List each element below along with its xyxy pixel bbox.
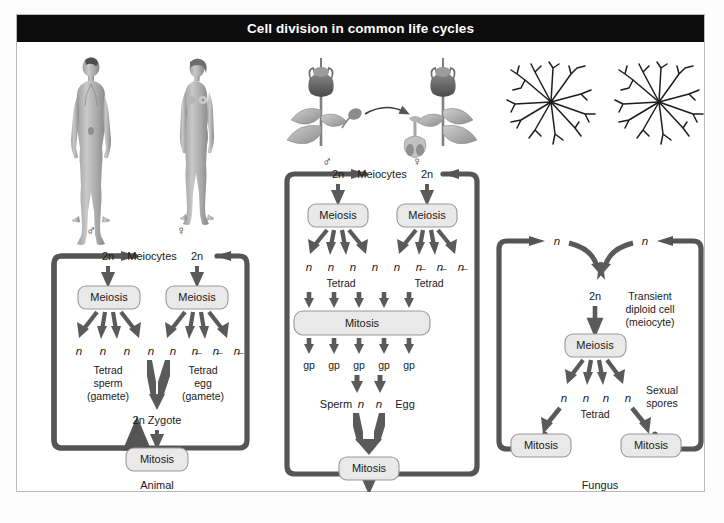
plant-mitosis-label: Mitosis xyxy=(352,462,387,474)
mycelium-network-right-icon xyxy=(615,62,703,144)
animal-loop-right-arrowhead xyxy=(215,251,231,261)
animal-meiocytes-label: Meiocytes xyxy=(127,250,177,262)
fungus-meiosis-box[interactable]: Meiosis xyxy=(565,334,626,357)
fungus-caption: Fungus xyxy=(582,479,619,491)
fungus-product-3: n xyxy=(625,392,631,404)
fungus-meiosis-label: Meiosis xyxy=(576,339,614,351)
animal-right-products: n n̶ n̶ n̶ xyxy=(170,345,244,357)
fungus-note-line2: diploid cell xyxy=(625,303,674,315)
plant-gp-4: gp xyxy=(403,359,415,371)
plant-right-meiosis-box[interactable]: Meiosis xyxy=(397,204,457,227)
animal-left-product-0: n xyxy=(76,345,82,357)
plant-left-product-2: n xyxy=(350,261,356,273)
animal-left-tetrad-arrows xyxy=(77,312,141,339)
animal-egg-line1: Tetrad xyxy=(188,364,217,376)
plant-left-tetrad-arrows xyxy=(308,230,368,255)
animal-right-meiosis-box[interactable]: Meiosis xyxy=(166,286,228,309)
figure-frame: Cell division in common life cycles xyxy=(16,14,705,492)
plant-gp-3: gp xyxy=(378,359,390,371)
flowering-plant-female-icon xyxy=(417,58,477,146)
plant-right-tetrad-label: Tetrad xyxy=(414,277,443,289)
animal-female-symbol: ♀ xyxy=(176,223,186,238)
animal-egg-line3: (gamete) xyxy=(182,390,224,402)
fungus-product-2: n xyxy=(603,392,609,404)
animal-left-meiosis-box[interactable]: Meiosis xyxy=(78,286,140,309)
fungus-right-ploidy: n xyxy=(642,235,648,247)
plant-gamete-arrows xyxy=(351,375,386,393)
plant-gametophyte-mitosis-box[interactable]: Mitosis xyxy=(294,311,430,335)
fungus-diploid-label: 2n xyxy=(589,290,601,302)
animal-sperm-line2: sperm xyxy=(93,377,122,389)
plant-right-product-1: n̶ xyxy=(416,261,426,273)
fungus-loop-right-arrowhead xyxy=(657,236,673,246)
plant-right-ploidy: 2n xyxy=(421,168,433,180)
plant-left-ploidy: 2n xyxy=(332,168,344,180)
plant-right-product-2: n̶ xyxy=(437,261,447,273)
fungus-loop-left-arrowhead xyxy=(529,236,545,246)
plant-gametophyte-output-arrows xyxy=(304,338,414,354)
plant-gametophytes: gp gp gp gp gp xyxy=(303,359,415,371)
page-title: Cell division in common life cycles xyxy=(247,21,474,36)
animal-sperm-line1: Tetrad xyxy=(93,364,122,376)
animal-right-product-1: n̶ xyxy=(192,345,202,357)
animal-left-ploidy: 2n xyxy=(102,250,114,262)
mycelium-network-left-icon xyxy=(507,62,595,144)
fungus-cycle-loop-right xyxy=(655,241,701,449)
animal-right-tetrad-arrows xyxy=(165,312,229,339)
fungus-product-0: n xyxy=(561,392,567,404)
plant-sperm-ploidy: n xyxy=(358,398,364,410)
animal-caption: Animal xyxy=(140,479,174,491)
plant-right-product-0: n xyxy=(394,261,400,273)
fungus-spores-line1: Sexual xyxy=(646,384,678,396)
plant-gp-1: gp xyxy=(328,359,340,371)
fungus-products: n n n n xyxy=(561,392,631,404)
diagram-canvas: ♂ ♀ 2n Meiocytes 2n xyxy=(17,42,704,492)
animal-right-meiosis-arrow xyxy=(193,266,201,283)
plant-sperm-label: Sperm xyxy=(320,398,352,410)
fungus-note-line3: (meiocyte) xyxy=(625,316,674,328)
animal-mitosis-box[interactable]: Mitosis xyxy=(126,448,188,471)
plant-gp-0: gp xyxy=(303,359,315,371)
plant-meiocytes-label: Meiocytes xyxy=(357,168,407,180)
plant-left-product-1: n xyxy=(328,261,334,273)
plant-right-meiosis-label: Meiosis xyxy=(408,209,446,221)
panel-fungus: n n 2n Transient diploid cell (meiocyte) xyxy=(499,62,703,491)
plant-gp-2: gp xyxy=(353,359,365,371)
animal-left-product-3: n xyxy=(148,345,154,357)
animal-sperm-line3: (gamete) xyxy=(87,390,129,402)
plant-fertilization-arrow xyxy=(353,413,385,455)
animal-fertilization-arrow xyxy=(147,360,170,410)
animal-right-product-0: n xyxy=(170,345,176,357)
animal-right-meiosis-label: Meiosis xyxy=(178,291,216,303)
pollen-grain-icon xyxy=(342,106,364,128)
life-cycle-diagram: ♂ ♀ 2n Meiocytes 2n xyxy=(17,42,704,492)
plant-mitosis-box[interactable]: Mitosis xyxy=(339,457,399,480)
animal-left-product-1: n xyxy=(100,345,106,357)
fungus-left-mitosis-label: Mitosis xyxy=(524,439,559,451)
plant-loop-right-arrowhead xyxy=(443,169,459,179)
fungus-meiosis-arrow xyxy=(590,306,600,332)
plant-egg-ploidy: n xyxy=(376,398,382,410)
figure-title-bar: Cell division in common life cycles xyxy=(17,15,704,42)
panel-plant: ♂ ♀ 2n Meiocytes 2n Meiosis Meio xyxy=(287,58,477,490)
fungus-right-mitosis-box[interactable]: Mitosis xyxy=(621,434,681,457)
fungus-right-mitosis-label: Mitosis xyxy=(634,439,669,451)
plant-left-product-3: n xyxy=(372,261,378,273)
plant-left-products: n n n n xyxy=(306,261,378,273)
female-human-figure-icon xyxy=(180,59,214,226)
plant-right-meiosis-arrow xyxy=(423,184,431,201)
plant-right-tetrad-arrows xyxy=(397,230,457,255)
animal-right-product-3: n̶ xyxy=(234,345,244,357)
plant-left-product-0: n xyxy=(306,261,312,273)
fungus-left-mitosis-box[interactable]: Mitosis xyxy=(511,434,571,457)
pollen-transfer-arrow-icon xyxy=(365,107,405,114)
animal-egg-line2: egg xyxy=(194,377,212,389)
fungus-tetrad-label: Tetrad xyxy=(580,408,609,420)
plant-right-product-3: n̶ xyxy=(458,261,468,273)
male-human-figure-icon xyxy=(71,57,111,245)
animal-right-product-2: n̶ xyxy=(213,345,223,357)
plant-female-symbol: ♀ xyxy=(412,154,422,169)
fungus-cycle-loop-left xyxy=(499,241,545,449)
plant-left-meiosis-arrow xyxy=(334,184,342,201)
plant-left-meiosis-box[interactable]: Meiosis xyxy=(308,204,368,227)
